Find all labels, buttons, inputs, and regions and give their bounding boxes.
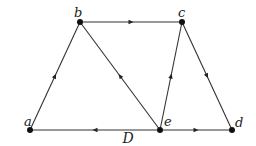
- node-label-a: a: [24, 114, 32, 129]
- arrowhead-e-a: [93, 128, 98, 132]
- graph-caption: D: [121, 130, 133, 146]
- node-label-d: d: [235, 115, 243, 130]
- arrowhead-e-d: [194, 128, 199, 132]
- node-label-e: e: [164, 114, 172, 129]
- arrowhead-b-c: [129, 20, 134, 24]
- node-label-c: c: [178, 5, 186, 20]
- edges-group: [30, 20, 232, 132]
- node-label-b: b: [74, 5, 82, 20]
- directed-graph: a b c d e D: [0, 0, 256, 146]
- nodes-group: [27, 19, 235, 133]
- node-e: [157, 127, 163, 133]
- arrowhead-e-c: [168, 74, 172, 79]
